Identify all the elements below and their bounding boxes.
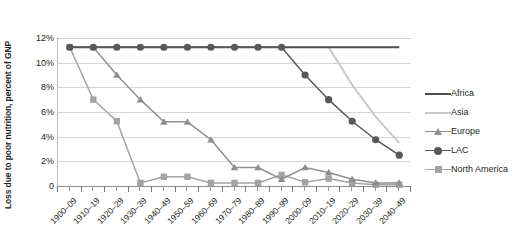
legend-key-icon xyxy=(425,164,451,176)
legend-item-africa[interactable]: Africa xyxy=(425,84,529,103)
legend-key-icon xyxy=(425,88,451,100)
chart-container: Loss due to poor nutrition, percent of G… xyxy=(0,0,529,250)
legend-item-asia[interactable]: Asia xyxy=(425,103,529,122)
legend: AfricaAsiaEuropeLACNorth America xyxy=(425,84,529,179)
legend-label: LAC xyxy=(451,146,469,155)
legend-key-icon xyxy=(425,107,451,119)
legend-label: Europe xyxy=(451,127,480,136)
legend-label: North America xyxy=(451,165,508,174)
legend-key-icon xyxy=(425,126,451,138)
legend-item-europe[interactable]: Europe xyxy=(425,122,529,141)
legend-label: Asia xyxy=(451,108,469,117)
legend-label: Africa xyxy=(451,89,474,98)
legend-item-north-america[interactable]: North America xyxy=(425,160,529,179)
legend-item-lac[interactable]: LAC xyxy=(425,141,529,160)
legend-key-icon xyxy=(425,145,451,157)
